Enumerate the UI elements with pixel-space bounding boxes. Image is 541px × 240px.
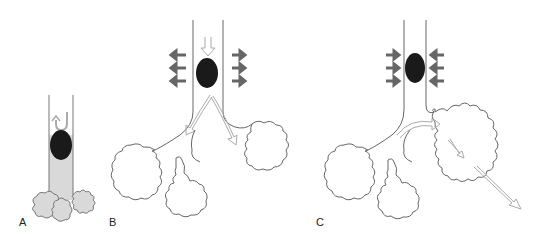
panel-b: [111, 20, 288, 217]
diagram-canvas: [0, 0, 541, 240]
lobe-b-middle: [165, 157, 207, 217]
obstruction-c: [405, 53, 425, 83]
panel-label-c: C: [316, 216, 324, 228]
trapped-air-arrow-icon: [397, 118, 440, 138]
lobe-c-left: [324, 144, 375, 200]
airflow-split-arrow-icon: [186, 95, 212, 135]
lobe-a3: [72, 190, 95, 213]
panel-label-a: A: [19, 216, 26, 228]
lobe-c-overdistended: [432, 103, 498, 182]
obstruction-a: [50, 130, 72, 160]
lobe-b-right: [245, 121, 289, 170]
airway-b-right-wall: [223, 20, 252, 128]
airway-c-left-wall: [368, 20, 404, 150]
inflow-arrow-icon: [201, 37, 215, 56]
panel-c: [324, 20, 521, 219]
panel-label-b: B: [109, 216, 116, 228]
lobe-a2: [52, 198, 72, 221]
obstruction-b: [196, 58, 218, 88]
lobe-b-left: [111, 144, 162, 200]
panel-a: [33, 95, 96, 221]
lobe-c-middle: [377, 159, 419, 219]
